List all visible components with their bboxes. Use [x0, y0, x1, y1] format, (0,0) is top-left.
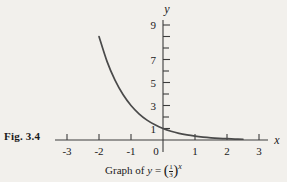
caption-paren-open: (: [164, 162, 169, 178]
caption-prefix: Graph of: [105, 164, 147, 176]
x-tick-label: -1: [126, 145, 135, 157]
figure-caption: Graph of y = (13)x: [0, 162, 287, 179]
caption-exponent: x: [178, 162, 182, 171]
y-axis-ticks: [163, 25, 170, 129]
x-tick-label: -2: [94, 145, 103, 157]
x-tick-label: 3: [256, 145, 262, 157]
figure-container: Fig. 3.4 -3 -2: [0, 0, 287, 182]
x-tick-label: -3: [62, 145, 72, 157]
y-tick-label: 3: [151, 100, 157, 112]
x-axis-label: x: [273, 133, 280, 147]
caption-equals: =: [152, 164, 164, 176]
y-tick-label: 9: [151, 19, 157, 31]
exponential-decay-plot: -3 -2 -1 0 1 2 3 1 3 5 7 9 y x: [0, 0, 287, 182]
x-tick-label: 1: [192, 145, 198, 157]
y-tick-label: 5: [151, 77, 157, 89]
y-tick-label: 7: [151, 54, 157, 66]
x-tick-label: 2: [224, 145, 230, 157]
function-curve: [99, 37, 243, 140]
y-axis-label: y: [163, 2, 170, 16]
x-tick-label-origin: 0: [153, 145, 159, 157]
